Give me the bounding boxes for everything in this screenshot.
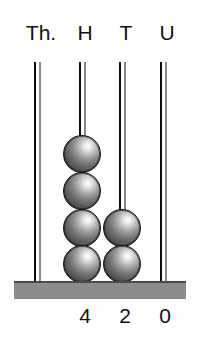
column-digit-hundreds: 4 <box>69 303 101 329</box>
abacus-base-bar <box>14 281 186 299</box>
rod-shaft-dark-edge <box>160 62 162 288</box>
rod-shaft-dark-edge <box>34 62 36 288</box>
bead[interactable] <box>63 135 101 173</box>
bead[interactable] <box>103 209 141 247</box>
rod-shaft-light-edge <box>39 62 41 288</box>
abacus-figure: Th. H T U 4 2 0 <box>0 0 197 339</box>
column-digit-tens: 2 <box>109 303 141 329</box>
column-label-units: U <box>148 20 186 46</box>
rod-shaft-light-edge <box>165 62 167 288</box>
column-label-hundreds: H <box>66 20 104 46</box>
column-digit-units: 0 <box>149 303 181 329</box>
rod-units[interactable] <box>160 62 167 288</box>
bead[interactable] <box>63 172 101 210</box>
bead[interactable] <box>103 245 141 283</box>
column-label-thousands: Th. <box>18 20 64 46</box>
bead[interactable] <box>63 209 101 247</box>
rod-thousands[interactable] <box>34 62 41 288</box>
column-digit-thousands <box>18 303 50 329</box>
bead[interactable] <box>63 245 101 283</box>
column-label-tens: T <box>107 20 145 46</box>
